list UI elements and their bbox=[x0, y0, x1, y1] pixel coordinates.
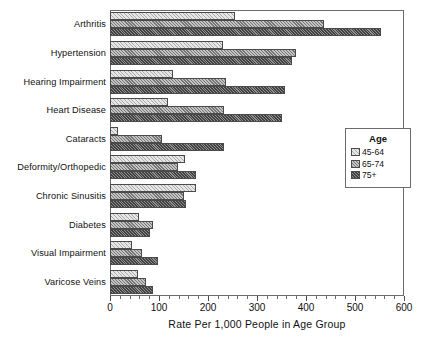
legend-item: 45-64 bbox=[351, 147, 410, 157]
category-label: Chronic Sinusitis bbox=[0, 191, 106, 201]
x-tick-minor bbox=[179, 296, 180, 299]
x-tick-minor bbox=[286, 296, 287, 299]
bar bbox=[110, 249, 142, 257]
x-tick-label: 400 bbox=[286, 302, 326, 314]
x-tick-minor bbox=[326, 296, 327, 299]
bar bbox=[110, 163, 178, 171]
x-tick-minor bbox=[375, 296, 376, 299]
bar bbox=[110, 221, 153, 229]
bar bbox=[110, 184, 196, 192]
bar bbox=[110, 57, 292, 65]
category-label: Hypertension bbox=[0, 48, 106, 58]
x-tick-minor bbox=[228, 296, 229, 299]
bar bbox=[110, 213, 139, 221]
bar bbox=[110, 41, 223, 49]
bar bbox=[110, 257, 158, 265]
category-label: Heart Disease bbox=[0, 105, 106, 115]
x-tick-minor bbox=[130, 296, 131, 299]
x-tick-minor bbox=[384, 296, 385, 299]
bar bbox=[110, 49, 296, 57]
legend-item: 65-74 bbox=[351, 159, 410, 169]
legend-rows: 45-6465-7475+ bbox=[346, 147, 410, 180]
bar bbox=[110, 278, 146, 286]
x-tick-major bbox=[110, 296, 111, 301]
bar bbox=[110, 98, 168, 106]
bar bbox=[110, 143, 224, 151]
bar-chart: ArthritisHypertensionHearing ImpairmentH… bbox=[0, 0, 421, 349]
bar bbox=[110, 192, 184, 200]
x-axis-title: Rate Per 1,000 People in Age Group bbox=[110, 318, 404, 330]
bar bbox=[110, 12, 235, 20]
legend-swatch-icon bbox=[351, 160, 360, 168]
x-tick-label: 600 bbox=[384, 302, 421, 314]
category-label: Cataracts bbox=[0, 134, 106, 144]
x-tick-minor bbox=[335, 296, 336, 299]
x-tick-label: 0 bbox=[90, 302, 130, 314]
bar bbox=[110, 286, 153, 294]
bar bbox=[110, 229, 150, 237]
legend-swatch-icon bbox=[351, 148, 360, 156]
category-label: Hearing Impairment bbox=[0, 77, 106, 87]
x-axis: 0100200300400500600 bbox=[110, 296, 404, 320]
x-tick-major bbox=[306, 296, 307, 301]
legend: Age 45-6465-7475+ bbox=[345, 128, 411, 188]
bar bbox=[110, 70, 173, 78]
legend-label: 45-64 bbox=[362, 147, 384, 157]
x-tick-minor bbox=[296, 296, 297, 299]
x-tick-major bbox=[208, 296, 209, 301]
bar bbox=[110, 270, 138, 278]
bar bbox=[110, 20, 324, 28]
legend-label: 75+ bbox=[362, 170, 377, 180]
x-tick-minor bbox=[365, 296, 366, 299]
x-tick-label: 500 bbox=[335, 302, 375, 314]
bar bbox=[110, 127, 118, 135]
category-label: Diabetes bbox=[0, 220, 106, 230]
x-tick-minor bbox=[394, 296, 395, 299]
legend-title: Age bbox=[346, 133, 410, 144]
x-tick-minor bbox=[316, 296, 317, 299]
x-tick-minor bbox=[247, 296, 248, 299]
x-tick-minor bbox=[218, 296, 219, 299]
x-tick-label: 200 bbox=[188, 302, 228, 314]
category-label: Varicose Veins bbox=[0, 277, 106, 287]
x-tick-minor bbox=[169, 296, 170, 299]
x-tick-minor bbox=[139, 296, 140, 299]
legend-label: 65-74 bbox=[362, 159, 384, 169]
x-tick-minor bbox=[267, 296, 268, 299]
x-tick-major bbox=[404, 296, 405, 301]
bar bbox=[110, 171, 196, 179]
bar bbox=[110, 86, 285, 94]
x-tick-minor bbox=[345, 296, 346, 299]
bar bbox=[110, 200, 186, 208]
bar bbox=[110, 135, 162, 143]
category-label: Arthritis bbox=[0, 19, 106, 29]
x-tick-label: 300 bbox=[237, 302, 277, 314]
x-tick-label: 100 bbox=[139, 302, 179, 314]
x-tick-minor bbox=[237, 296, 238, 299]
x-tick-minor bbox=[277, 296, 278, 299]
x-tick-major bbox=[355, 296, 356, 301]
x-tick-minor bbox=[188, 296, 189, 299]
category-label: Visual Impairment bbox=[0, 248, 106, 258]
bar bbox=[110, 106, 224, 114]
x-tick-major bbox=[257, 296, 258, 301]
legend-item: 75+ bbox=[351, 170, 410, 180]
bar bbox=[110, 78, 226, 86]
bar bbox=[110, 28, 381, 36]
bar bbox=[110, 155, 185, 163]
x-tick-minor bbox=[198, 296, 199, 299]
category-label: Deformity/Orthopedic bbox=[0, 162, 106, 172]
x-tick-minor bbox=[149, 296, 150, 299]
bar bbox=[110, 114, 282, 122]
bar bbox=[110, 241, 132, 249]
x-tick-major bbox=[159, 296, 160, 301]
legend-swatch-icon bbox=[351, 171, 360, 179]
category-axis: ArthritisHypertensionHearing ImpairmentH… bbox=[0, 10, 106, 296]
x-tick-minor bbox=[120, 296, 121, 299]
